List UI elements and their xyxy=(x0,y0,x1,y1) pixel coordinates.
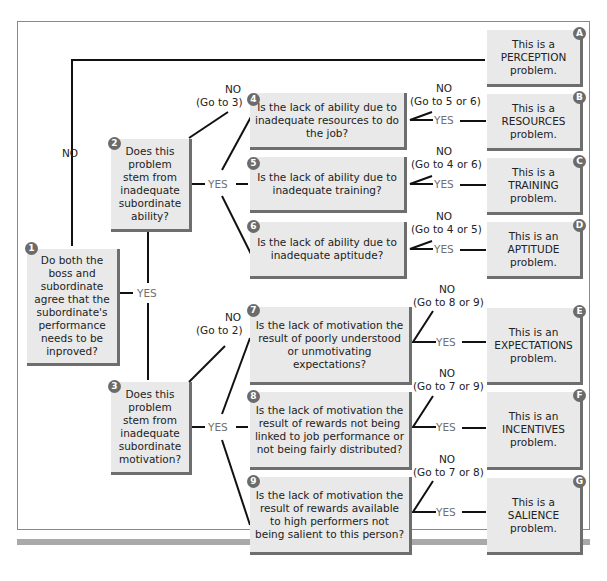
badge-3: 3 xyxy=(108,380,121,393)
outcome-f-text: This is an INCENTIVES problem. xyxy=(491,410,576,449)
decision-box-6: Is the lack of ability due to inadequate… xyxy=(250,222,407,279)
badge-8: 8 xyxy=(247,390,260,403)
label-goto-4-or-5: (Go to 4 or 5) xyxy=(411,223,482,236)
outcome-box-c: This is a TRAINING problem. xyxy=(487,158,583,215)
decision-6-text: Is the lack of ability due to inadequate… xyxy=(254,236,400,262)
badge-4: 4 xyxy=(247,93,260,106)
label-no-4: NO xyxy=(436,82,452,95)
badge-b: B xyxy=(573,91,586,104)
badge-g: G xyxy=(573,475,586,488)
label-no-7: NO xyxy=(439,283,455,296)
decision-8-text: Is the lack of motivation the result of … xyxy=(254,404,405,456)
decision-3-text: Does this problem stem from inadequate s… xyxy=(115,388,185,466)
outcome-b-text: This is a RESOURCES problem. xyxy=(491,102,576,141)
label-no-9: NO xyxy=(439,453,455,466)
label-yes-9: YES xyxy=(436,506,456,519)
decision-box-8: Is the lack of motivation the result of … xyxy=(250,392,412,470)
badge-e: E xyxy=(573,305,586,318)
label-yes-8: YES xyxy=(436,421,456,434)
decision-box-1: Do both the boss and subordinate agree t… xyxy=(27,249,120,366)
badge-f: F xyxy=(573,389,586,402)
label-goto-2: (Go to 2) xyxy=(196,324,243,337)
badge-1: 1 xyxy=(25,242,38,255)
outcome-c-text: This is a TRAINING problem. xyxy=(491,166,576,205)
badge-7: 7 xyxy=(247,304,260,317)
label-no-3: NO xyxy=(225,311,241,324)
label-yes-7: YES xyxy=(436,336,456,349)
outcome-box-a: This is a PERCEPTION problem. xyxy=(487,30,583,87)
label-yes-4: YES xyxy=(434,114,454,127)
decision-2-text: Does this problem stem from inadequate s… xyxy=(115,145,185,223)
label-goto-4-or-6: (Go to 4 or 6) xyxy=(411,158,482,171)
decision-7-text: Is the lack of motivation the result of … xyxy=(254,319,405,371)
decision-box-4: Is the lack of ability due to inadequate… xyxy=(250,93,407,150)
label-goto-8-or-9: (Go to 8 or 9) xyxy=(413,296,484,309)
decision-4-text: Is the lack of ability due to inadequate… xyxy=(254,101,400,140)
label-no-8: NO xyxy=(439,367,455,380)
label-no-1: NO xyxy=(62,147,78,160)
decision-box-9: Is the lack of motivation the result of … xyxy=(250,477,412,555)
label-goto-3: (Go to 3) xyxy=(196,96,243,109)
decision-box-7: Is the lack of motivation the result of … xyxy=(250,307,412,385)
outcome-box-d: This is an APTITUDE problem. xyxy=(487,222,583,279)
label-yes-1: YES xyxy=(137,287,157,300)
decision-box-5: Is the lack of ability due to inadequate… xyxy=(250,157,407,213)
outcome-box-g: This is a SALIENCE problem. xyxy=(487,478,583,555)
badge-6: 6 xyxy=(247,220,260,233)
outcome-box-f: This is an INCENTIVES problem. xyxy=(487,392,583,470)
outcome-e-text: This is an EXPECTATIONS problem. xyxy=(491,326,576,365)
label-yes-2: YES xyxy=(208,178,228,191)
label-no-6: NO xyxy=(436,210,452,223)
badge-9: 9 xyxy=(247,475,260,488)
outcome-a-text: This is a PERCEPTION problem. xyxy=(491,38,576,77)
decision-5-text: Is the lack of ability due to inadequate… xyxy=(254,171,400,197)
label-yes-6: YES xyxy=(434,243,454,256)
label-yes-3: YES xyxy=(208,421,228,434)
label-no-2: NO xyxy=(225,83,241,96)
decision-box-3: Does this problem stem from inadequate s… xyxy=(111,382,192,475)
outcome-g-text: This is a SALIENCE problem. xyxy=(491,496,576,535)
badge-2: 2 xyxy=(108,137,121,150)
label-yes-5: YES xyxy=(434,178,454,191)
label-no-5: NO xyxy=(436,145,452,158)
label-goto-7-or-9: (Go to 7 or 9) xyxy=(413,380,484,393)
label-goto-5-or-6: (Go to 5 or 6) xyxy=(410,95,481,108)
outcome-d-text: This is an APTITUDE problem. xyxy=(491,230,576,269)
badge-5: 5 xyxy=(247,157,260,170)
badge-c: C xyxy=(573,155,586,168)
decision-box-2: Does this problem stem from inadequate s… xyxy=(111,139,192,232)
outcome-box-b: This is a RESOURCES problem. xyxy=(487,94,583,151)
badge-a: A xyxy=(573,27,586,40)
decision-1-text: Do both the boss and subordinate agree t… xyxy=(31,254,113,358)
badge-d: D xyxy=(573,219,586,232)
label-goto-7-or-8: (Go to 7 or 8) xyxy=(413,466,484,479)
outcome-box-e: This is an EXPECTATIONS problem. xyxy=(487,308,583,385)
decision-9-text: Is the lack of motivation the result of … xyxy=(254,489,405,541)
